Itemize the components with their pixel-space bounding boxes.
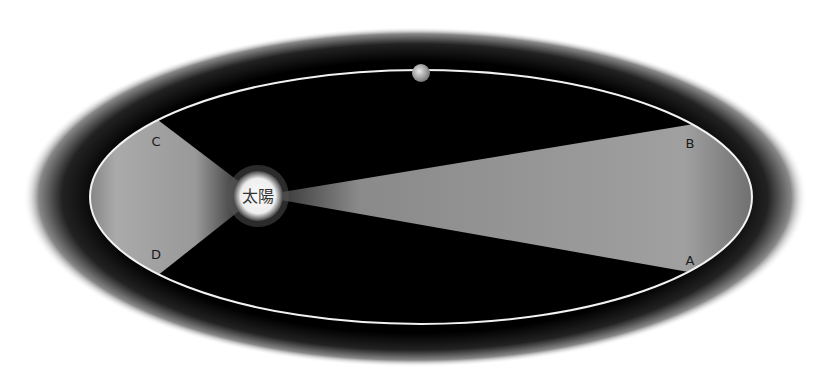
point-label-d: D: [151, 247, 161, 262]
point-label-b: B: [686, 136, 695, 151]
point-label-c: C: [151, 134, 160, 149]
planet: [412, 64, 430, 82]
point-label-a: A: [686, 253, 695, 268]
kepler-diagram: 太陽 A B C D: [0, 0, 838, 377]
sun-label: 太陽: [242, 187, 274, 206]
